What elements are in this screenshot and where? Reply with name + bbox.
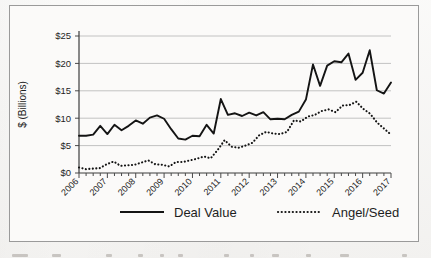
- svg-text:2013: 2013: [258, 176, 279, 197]
- caption-fragment: [340, 254, 349, 257]
- clipped-caption: [10, 248, 410, 257]
- svg-text:$0: $0: [60, 167, 71, 178]
- svg-text:$10: $10: [55, 113, 71, 124]
- chart-legend: Deal ValueAngel/Seed: [120, 205, 399, 220]
- svg-text:2008: 2008: [116, 176, 137, 197]
- svg-text:$ (Billions): $ (Billions): [17, 81, 28, 128]
- caption-fragment: [52, 254, 61, 257]
- x-axis-ticks: [79, 173, 391, 178]
- gridlines: [79, 36, 391, 146]
- caption-fragment: [138, 254, 143, 257]
- line-chart: $0$5$10$15$20$25 20062007200820092010201…: [10, 6, 418, 241]
- svg-text:2014: 2014: [286, 176, 307, 197]
- svg-text:2011: 2011: [201, 176, 222, 197]
- caption-fragment: [12, 254, 28, 257]
- y-axis-labels: $0$5$10$15$20$25: [55, 30, 71, 178]
- svg-text:Angel/Seed: Angel/Seed: [332, 205, 399, 220]
- svg-text:$25: $25: [55, 30, 71, 41]
- caption-fragment: [178, 254, 183, 257]
- document-page: $0$5$10$15$20$25 20062007200820092010201…: [0, 0, 431, 258]
- svg-text:$5: $5: [60, 140, 71, 151]
- svg-text:$15: $15: [55, 85, 71, 96]
- axis-lines: [79, 31, 391, 173]
- svg-text:Deal Value: Deal Value: [174, 205, 237, 220]
- figure-frame: $0$5$10$15$20$25 20062007200820092010201…: [9, 5, 419, 242]
- svg-text:$20: $20: [55, 58, 71, 69]
- caption-fragment: [160, 254, 164, 257]
- caption-fragment: [272, 254, 279, 257]
- caption-fragment: [306, 254, 311, 257]
- y-axis-title: $ (Billions): [17, 81, 28, 128]
- data-series: [79, 50, 391, 169]
- svg-text:2006: 2006: [59, 176, 80, 197]
- caption-fragment: [402, 254, 407, 257]
- svg-text:2012: 2012: [229, 176, 250, 197]
- svg-text:2007: 2007: [88, 176, 109, 197]
- x-axis-labels: 2006200720082009201020112012201320142015…: [59, 176, 392, 197]
- caption-fragment: [224, 254, 229, 257]
- svg-text:2016: 2016: [343, 176, 364, 197]
- svg-text:2015: 2015: [314, 176, 335, 197]
- caption-fragment: [106, 254, 112, 257]
- caption-fragment: [250, 254, 254, 257]
- svg-text:2017: 2017: [371, 176, 392, 197]
- svg-text:2010: 2010: [173, 176, 194, 197]
- svg-text:2009: 2009: [144, 176, 165, 197]
